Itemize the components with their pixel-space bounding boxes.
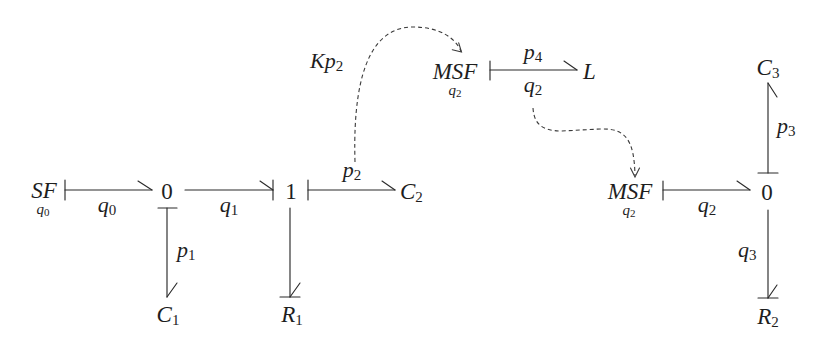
half-arrow-icon [382, 181, 395, 190]
bond-1-to-c2 [308, 180, 395, 200]
junction-0-right: 0 [761, 180, 773, 205]
half-arrow-icon [167, 283, 177, 297]
node-msf-top: MSF q2 [432, 59, 479, 99]
bond-label-p4: p4 [522, 39, 543, 65]
dashed-curve [355, 27, 461, 162]
junction-0-left: 0 [161, 179, 173, 204]
signal-q2-to-msf [533, 108, 640, 177]
half-arrow-icon [737, 181, 750, 190]
bond-label-q2-top: q2 [524, 72, 543, 98]
signal-kp2-to-msf [355, 27, 462, 162]
half-arrow-icon [260, 181, 273, 190]
bond-0-to-c1 [158, 208, 177, 297]
node-sublabel: q2 [449, 82, 462, 99]
node-c1: C1 [157, 302, 180, 328]
node-c3: C3 [757, 55, 780, 81]
bond-label-p2: p2 [341, 157, 362, 183]
half-arrow-icon [138, 181, 152, 190]
node-msf-right: MSF q2 [607, 179, 654, 219]
node-l: L [582, 59, 596, 84]
half-arrow-icon [768, 285, 777, 298]
signal-label-kp2: Kp2 [309, 48, 343, 74]
node-sublabel: q2 [623, 202, 636, 219]
bond-1-to-r1 [280, 208, 300, 297]
bond-label-q2-right: q2 [698, 192, 717, 218]
junction-1: 1 [285, 179, 297, 204]
bond-graph-diagram: SF q0 0 1 C1 R1 C2 MSF q2 L MSF q2 0 C3 … [0, 0, 829, 352]
node-c2: C2 [400, 179, 423, 205]
node-r1: R1 [280, 302, 303, 328]
node-sf: SF q0 [31, 178, 58, 218]
node-r2: R2 [756, 304, 779, 330]
node-sublabel: q0 [37, 201, 51, 218]
node-label: MSF [432, 59, 479, 84]
bond-graph-svg: SF q0 0 1 C1 R1 C2 MSF q2 L MSF q2 0 C3 … [0, 0, 829, 352]
bond-label-q0: q0 [98, 192, 117, 218]
bond-label-p3: p3 [775, 113, 796, 139]
bond-0-to-c3 [758, 83, 778, 173]
bond-label-p1: p1 [175, 237, 196, 263]
dashed-curve [533, 108, 635, 175]
node-label: SF [31, 178, 58, 203]
bond-0-to-r2 [758, 210, 778, 298]
half-arrow-icon [768, 83, 777, 97]
bond-label-q1: q1 [220, 192, 239, 218]
bond-label-q3: q3 [738, 237, 757, 263]
half-arrow-icon [564, 61, 577, 70]
node-label: MSF [607, 179, 654, 204]
half-arrow-icon [290, 283, 300, 297]
